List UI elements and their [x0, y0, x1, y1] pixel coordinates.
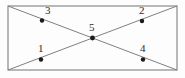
- point-marker-4: [141, 57, 145, 61]
- geometry-figure: 1 2 3 4 5: [0, 0, 185, 78]
- point-label-1: 1: [38, 42, 44, 54]
- point-marker-3: [40, 18, 44, 22]
- point-label-2: 2: [139, 4, 145, 16]
- point-marker-5: [90, 36, 95, 41]
- point-marker-1: [39, 57, 43, 61]
- figure-container: 1 2 3 4 5: [0, 0, 185, 78]
- point-label-5: 5: [89, 21, 95, 33]
- point-label-4: 4: [140, 42, 146, 54]
- point-label-3: 3: [45, 4, 51, 16]
- point-marker-2: [140, 19, 144, 23]
